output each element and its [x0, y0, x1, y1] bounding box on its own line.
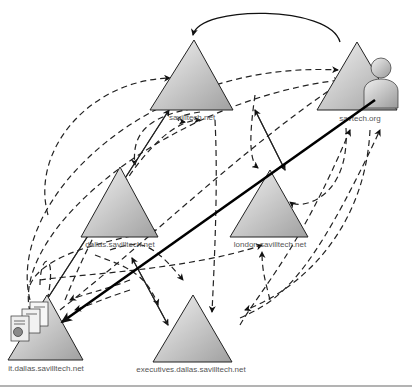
label-dallas: dallas.savilltech.net [85, 240, 155, 249]
label-executives: executives.dallas.savilltech.net [136, 365, 246, 374]
domain-savilltech[interactable]: savilltech.net [150, 40, 233, 122]
label-savilltech: savilltech.net [169, 113, 216, 122]
trust-diagram: savilltech.net savtech.org dallas.savill… [0, 0, 412, 390]
label-it: it.dallas.savilltech.net [8, 364, 84, 373]
domain-dallas[interactable]: dallas.savilltech.net [81, 167, 158, 249]
domain-executives[interactable]: executives.dallas.savilltech.net [136, 295, 246, 374]
forest-trust-arrow [193, 13, 340, 42]
domain-london[interactable]: london.savilltech.net [230, 170, 308, 249]
label-london: london.savilltech.net [234, 240, 307, 249]
domain-it[interactable]: it.dallas.savilltech.net [8, 295, 85, 373]
